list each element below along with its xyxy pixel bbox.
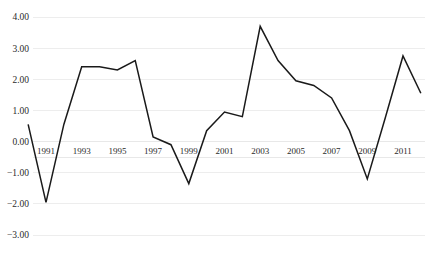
y-tick-label: 1.00 bbox=[12, 106, 29, 116]
y-axis-tick-labels: 4.003.002.001.000.00−1.00−2.00−3.00 bbox=[7, 12, 29, 240]
y-tick-label: 0.00 bbox=[12, 137, 29, 147]
y-tick-label: 2.00 bbox=[12, 75, 29, 85]
line-chart: 4.003.002.001.000.00−1.00−2.00−3.00 1991… bbox=[0, 0, 431, 255]
x-tick-label: 1995 bbox=[108, 146, 127, 156]
x-tick-label: 1997 bbox=[144, 146, 163, 156]
y-tick-label: 3.00 bbox=[12, 44, 29, 54]
x-tick-label: 2005 bbox=[287, 146, 306, 156]
x-tick-label: 2003 bbox=[251, 146, 270, 156]
x-tick-label: 2007 bbox=[323, 146, 342, 156]
y-tick-label: −1.00 bbox=[7, 168, 29, 178]
data-line-series-1 bbox=[28, 26, 421, 202]
x-tick-label: 1999 bbox=[180, 146, 199, 156]
x-tick-label: 1993 bbox=[73, 146, 92, 156]
x-tick-label: 2001 bbox=[216, 146, 234, 156]
y-tick-label: −3.00 bbox=[7, 230, 29, 240]
y-tick-label: 4.00 bbox=[12, 12, 29, 22]
gridlines bbox=[33, 17, 425, 235]
x-tick-label: 1991 bbox=[37, 146, 55, 156]
x-tick-label: 2011 bbox=[394, 146, 412, 156]
y-tick-label: −2.00 bbox=[7, 199, 29, 209]
chart-canvas: 4.003.002.001.000.00−1.00−2.00−3.00 1991… bbox=[0, 0, 431, 255]
